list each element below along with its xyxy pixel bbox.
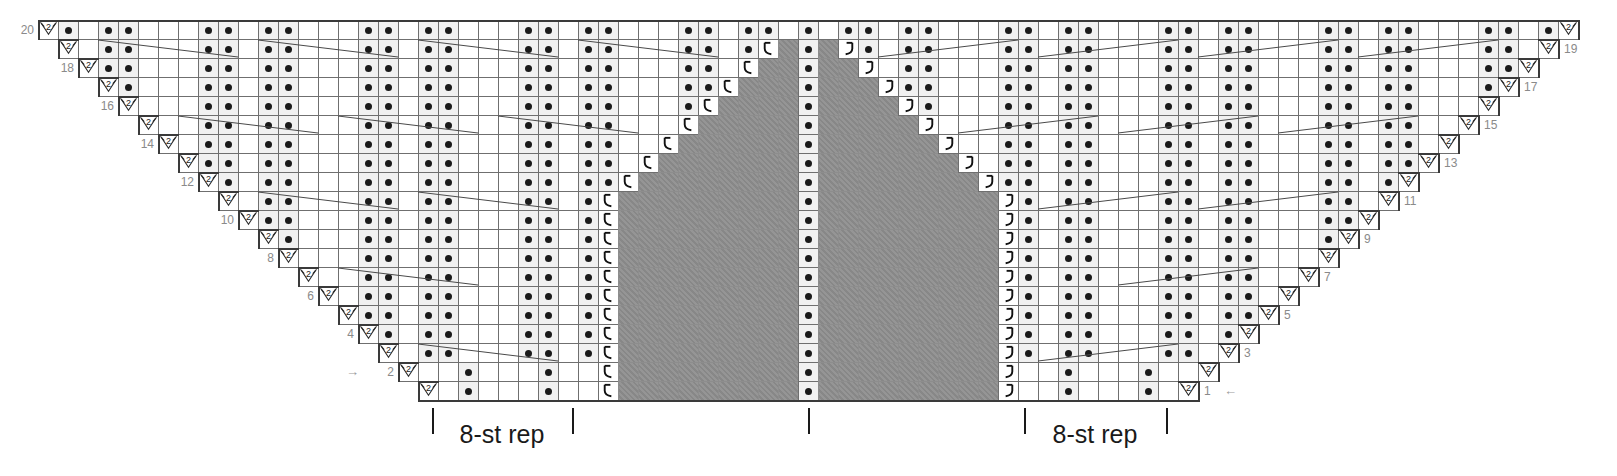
chart-cell (878, 153, 899, 173)
chart-cell (918, 96, 939, 116)
purl-dot-icon (605, 103, 612, 110)
chart-cell (1038, 362, 1059, 382)
chart-cell (1258, 20, 1279, 40)
chart-cell (1298, 20, 1319, 40)
chart-cell (998, 96, 1019, 116)
elongated-stitch-line (578, 39, 718, 58)
chart-cell (558, 324, 579, 344)
chart-cell (1198, 77, 1219, 97)
chart-cell (758, 96, 779, 116)
purl-dot-icon (605, 84, 612, 91)
chart-cell (358, 96, 379, 116)
purl-dot-icon (1325, 141, 1332, 148)
chart-cell (298, 153, 319, 173)
chart-cell (398, 39, 419, 59)
chart-cell (1238, 248, 1259, 268)
chart-cell (1378, 77, 1399, 97)
chart-outline (1358, 210, 1379, 212)
chart-cell (278, 20, 299, 40)
chart-cell (78, 39, 99, 59)
purl-dot-icon (285, 236, 292, 243)
chart-outline (1218, 362, 1220, 382)
chart-cell (418, 324, 439, 344)
chart-cell (1138, 77, 1159, 97)
chart-cell (1258, 115, 1279, 135)
purl-dot-icon (1325, 160, 1332, 167)
purl-dot-icon (365, 217, 372, 224)
chart-cell (458, 324, 479, 344)
purl-dot-icon (1345, 141, 1352, 148)
chart-cell (978, 96, 999, 116)
chart-cell (338, 58, 359, 78)
chart-cell (598, 343, 619, 363)
chart-cell (1218, 229, 1239, 249)
chart-outline (1538, 58, 1540, 78)
chart-cell (918, 58, 939, 78)
chart-cell (818, 248, 839, 268)
chart-cell (1098, 362, 1119, 382)
chart-cell (778, 153, 799, 173)
purl-dot-icon (1345, 46, 1352, 53)
chart-cell (298, 96, 319, 116)
chart-cell: 2 (1358, 210, 1379, 230)
chart-cell (898, 20, 919, 40)
chart-cell (1258, 286, 1279, 306)
chart-cell (558, 362, 579, 382)
chart-cell (1518, 20, 1539, 40)
chart-cell (318, 58, 339, 78)
chart-cell: 2 (398, 362, 419, 382)
chart-cell (438, 229, 459, 249)
chart-cell (798, 286, 819, 306)
chart-cell (558, 343, 579, 363)
elongated-stitch-line (958, 115, 1098, 134)
chart-cell (1218, 20, 1239, 40)
chart-cell (578, 229, 599, 249)
chart-cell (758, 210, 779, 230)
purl-dot-icon (1165, 293, 1172, 300)
chart-cell (1178, 39, 1199, 59)
chart-cell (938, 191, 959, 211)
chart-cell (1098, 77, 1119, 97)
chart-cell (1098, 134, 1119, 154)
chart-cell (658, 229, 679, 249)
chart-cell (1178, 210, 1199, 230)
purl-dot-icon (1245, 160, 1252, 167)
purl-dot-icon (1185, 179, 1192, 186)
chart-cell (538, 381, 559, 401)
chart-cell (778, 305, 799, 325)
chart-cell (1218, 210, 1239, 230)
purl-dot-icon (445, 27, 452, 34)
chart-cell (1018, 77, 1039, 97)
chart-cell (1138, 20, 1159, 40)
chart-cell: 2 (1378, 191, 1399, 211)
chart-cell (958, 58, 979, 78)
chart-outline (118, 96, 120, 116)
chart-cell (1238, 172, 1259, 192)
chart-cell (818, 58, 839, 78)
chart-outline (318, 286, 339, 288)
chart-cell (778, 324, 799, 344)
chart-cell (1158, 96, 1179, 116)
chart-cell (718, 96, 739, 116)
chart-outline (338, 305, 340, 325)
purl-dot-icon (445, 255, 452, 262)
chart-cell (1158, 210, 1179, 230)
purl-dot-icon (545, 236, 552, 243)
chart-cell (398, 191, 419, 211)
purl-dot-icon (205, 160, 212, 167)
purl-dot-icon (205, 65, 212, 72)
chart-cell (838, 229, 859, 249)
chart-cell (198, 20, 219, 40)
purl-dot-icon (1185, 293, 1192, 300)
purl-dot-icon (1505, 46, 1512, 53)
chart-cell (758, 229, 779, 249)
chart-cell (918, 362, 939, 382)
chart-cell (98, 58, 119, 78)
purl-dot-icon (425, 84, 432, 91)
chart-outline (1338, 248, 1340, 268)
chart-cell (618, 267, 639, 287)
purl-dot-icon (425, 179, 432, 186)
chart-cell (478, 58, 499, 78)
yarnover-right-icon (879, 78, 898, 96)
chart-cell (798, 267, 819, 287)
